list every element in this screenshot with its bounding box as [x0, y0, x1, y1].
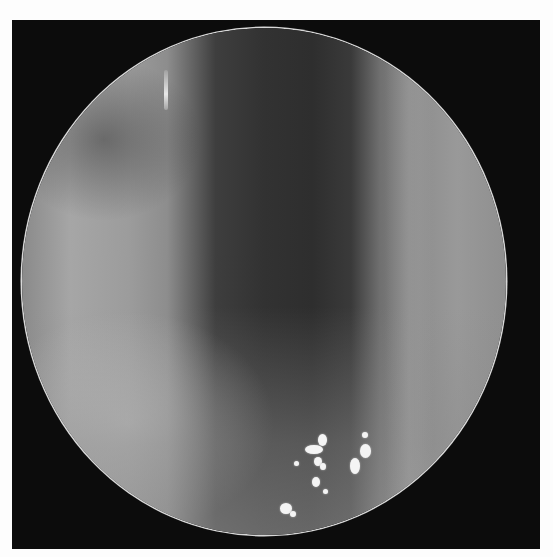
tissue-shading: [22, 307, 506, 535]
tissue-fold: [385, 28, 433, 535]
highlight-spot: [312, 477, 320, 487]
endoscope-view: [22, 28, 506, 535]
highlight-spot: [323, 489, 328, 494]
highlight-spot: [294, 461, 299, 466]
highlight-spot: [318, 434, 327, 446]
highlight-spot: [350, 458, 360, 474]
highlight-spot: [362, 432, 368, 438]
highlight-spot: [290, 511, 296, 517]
light-reflection-streak: [164, 70, 168, 110]
highlight-spot: [305, 445, 323, 454]
highlight-spot: [360, 444, 371, 458]
highlight-spot: [320, 463, 326, 470]
